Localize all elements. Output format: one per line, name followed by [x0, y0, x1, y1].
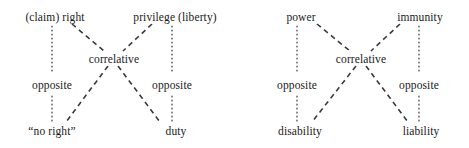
- d2-node-bottom-right: liability: [401, 125, 442, 138]
- d1-correlative-line-tl: [72, 24, 104, 51]
- d1-relation-opposite-left: opposite: [29, 79, 75, 92]
- d1-relation-opposite-right: opposite: [149, 79, 195, 92]
- d2-relation-opposite-right: opposite: [396, 79, 442, 92]
- d1-node-top-right: privilege (liberty): [131, 11, 218, 24]
- d1-correlative-line-tr: [123, 24, 152, 51]
- d2-relation-opposite-left: opposite: [274, 79, 320, 92]
- d2-correlative-line-tr: [371, 24, 400, 51]
- jural-relations-figure: (claim) right privilege (liberty) correl…: [0, 0, 469, 148]
- d1-correlative-line-br: [118, 66, 160, 122]
- d2-node-bottom-left: disability: [276, 125, 324, 138]
- d1-node-bottom-left: “no right”: [26, 125, 77, 138]
- d2-correlative-line-tl: [317, 24, 350, 51]
- d2-correlative-line-bl: [312, 66, 356, 122]
- d2-correlative-line-br: [366, 66, 408, 122]
- d1-relation-correlative: correlative: [86, 53, 142, 66]
- d1-correlative-line-bl: [66, 66, 108, 122]
- d2-node-top-left: power: [284, 11, 317, 24]
- d2-relation-correlative: correlative: [333, 53, 389, 66]
- d1-node-bottom-right: duty: [164, 125, 189, 138]
- d2-node-top-right: immunity: [395, 11, 445, 24]
- d1-node-top-left: (claim) right: [23, 11, 86, 24]
